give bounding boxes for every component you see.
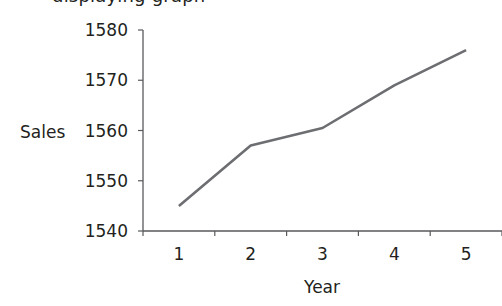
y-tick-label: 1580: [85, 20, 128, 40]
x-tick-label: 5: [461, 244, 472, 264]
sales-line: [179, 50, 466, 206]
x-tick-label: 3: [317, 244, 328, 264]
y-axis: 15401550156015701580: [85, 20, 143, 241]
x-axis-title: Year: [303, 277, 340, 297]
x-tick-label: 4: [389, 244, 400, 264]
y-tick-label: 1540: [85, 221, 128, 241]
y-axis-title: Sales: [20, 122, 65, 142]
x-axis: 12345: [143, 231, 502, 264]
y-tick-label: 1560: [85, 121, 128, 141]
data-series: [179, 50, 466, 206]
x-tick-label: 1: [173, 244, 184, 264]
y-tick-label: 1570: [85, 70, 128, 90]
x-tick-label: 2: [245, 244, 256, 264]
y-tick-label: 1550: [85, 171, 128, 191]
line-chart: 15401550156015701580 12345 Sales Year: [0, 0, 502, 306]
